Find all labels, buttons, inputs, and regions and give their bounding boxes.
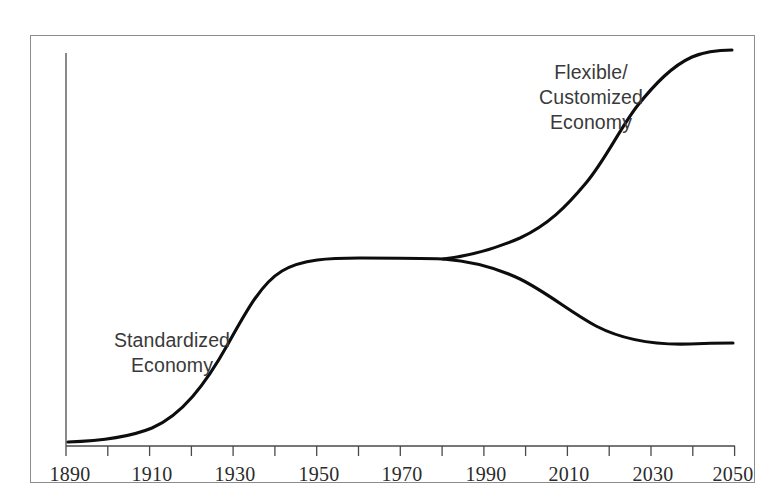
x-tick-label-2030: 2030: [632, 463, 673, 485]
x-tick-label-1970: 1970: [381, 463, 422, 485]
x-tick-label-1990: 1990: [465, 463, 506, 485]
standardized-economy-label: Standardized Economy: [92, 328, 252, 378]
x-tick-label-2050: 2050: [712, 463, 753, 485]
x-tick-label-1910: 1910: [131, 463, 172, 485]
x-axis-ticks: [66, 446, 735, 456]
x-tick-label-1930: 1930: [214, 463, 255, 485]
x-tick-label-1890: 1890: [49, 463, 90, 485]
chart-page: 1890 1910 1930 1950 1970 1990 2010 2030 …: [0, 0, 782, 502]
x-tick-label-1950: 1950: [298, 463, 339, 485]
x-tick-label-2010: 2010: [548, 463, 589, 485]
flexible-economy-label: Flexible/ Customized Economy: [505, 60, 677, 135]
